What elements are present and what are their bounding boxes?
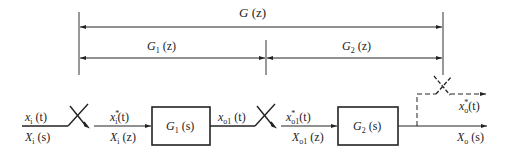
bracket-overall-gz: G (z)	[80, 5, 442, 27]
block-g2-label: G2 (s)	[353, 119, 381, 135]
dimension-lines	[79, 12, 443, 75]
input-sampler-icon	[68, 104, 88, 127]
signal-sampled-intermediate-time: x*o1(t)	[285, 109, 311, 126]
output-sampler-icon	[434, 76, 452, 95]
bracket-right-g2z: G2 (z)	[267, 39, 442, 58]
bracket-left-label: G1 (z)	[147, 39, 176, 55]
bracket-left-g1z: G1 (z)	[80, 39, 265, 58]
block-g2: G2 (s)	[338, 107, 398, 145]
signal-sampled-intermediate-z: Xo1 (z)	[291, 130, 324, 146]
signal-sampled-input-z: Xi (z)	[109, 130, 136, 146]
bracket-overall-label: G (z)	[239, 5, 266, 20]
signal-intermediate-time: xo1 (t)	[217, 110, 246, 126]
signal-sampled-input-time: x*i(t)	[109, 109, 129, 126]
signal-input-time: xi (t)	[24, 110, 47, 126]
block-g1-label: G1 (s)	[166, 119, 194, 135]
block-g1: G1 (s)	[152, 107, 210, 145]
signal-output-s: Xo (s)	[456, 130, 484, 146]
intermediate-sampler-icon	[255, 104, 275, 127]
signal-output-sampled-time: x*o(t)	[458, 98, 480, 115]
block-diagram: G (z) G1 (z) G2 (z) xi (t) Xi (s) x*i(t)…	[0, 0, 511, 154]
signal-input-s: Xi (s)	[24, 130, 50, 146]
bracket-right-label: G2 (z)	[342, 39, 371, 55]
